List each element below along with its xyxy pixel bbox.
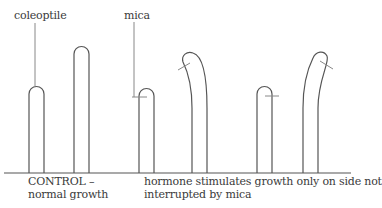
mica-label: mica <box>124 10 150 22</box>
control-short-coleoptile <box>29 87 44 174</box>
control-tall-coleoptile <box>74 47 89 174</box>
caption-line2: interrupted by mica <box>144 189 251 201</box>
caption-line1: hormone stimulates growth only on side n… <box>144 176 382 188</box>
mica-short-coleoptile <box>139 89 154 173</box>
mica-bent-coleoptile-2 <box>303 52 327 173</box>
mica-bent-coleoptile-1 <box>183 52 207 173</box>
coleoptile-label: coleoptile <box>14 10 66 22</box>
control-label-line2: normal growth <box>28 189 108 201</box>
control-label-line1: CONTROL – <box>28 176 94 188</box>
mica-right-short-coleoptile <box>257 87 272 174</box>
